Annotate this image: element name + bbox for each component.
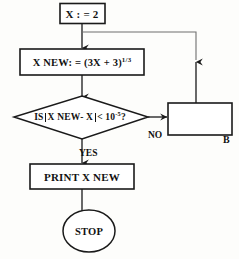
assign-box (20, 49, 144, 75)
print-box (30, 164, 134, 189)
stop-ellipse (63, 210, 115, 252)
b-box (168, 103, 232, 135)
flowchart-canvas: X : = 2 X NEW: = (3X + 3)1/3 ISX NEW- X<… (0, 0, 239, 259)
decision-diamond (14, 96, 148, 139)
flowchart-svg (0, 0, 239, 259)
start-box (60, 4, 105, 24)
